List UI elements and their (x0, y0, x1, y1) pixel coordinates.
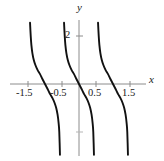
y-axis-label: y (77, 2, 82, 13)
plot-canvas (0, 0, 164, 161)
x-tick-label-1.5: 1.5 (122, 88, 135, 99)
y-tick-label-2: 2 (65, 30, 70, 41)
x-tick-label--0.5: -0.5 (50, 88, 67, 99)
x-tick-label-0.5: 0.5 (88, 88, 101, 99)
math-plot-figure: x y 2 -1.5 -0.5 0.5 1.5 (0, 0, 164, 161)
x-axis-label: x (149, 74, 154, 85)
x-tick-label--1.5: -1.5 (16, 88, 33, 99)
